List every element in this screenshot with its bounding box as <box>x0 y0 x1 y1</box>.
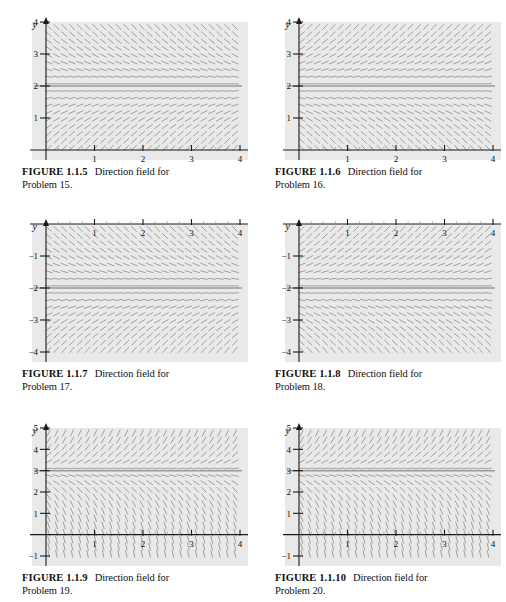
svg-text:2: 2 <box>141 228 146 238</box>
svg-text:1: 1 <box>92 154 97 164</box>
svg-text:−1: −1 <box>281 551 291 561</box>
figure-block-1-1-7: 1234−1−2−3−4yt FIGURE 1.1.7Direction fie… <box>0 218 253 394</box>
direction-field-plot-1-1-10: 1234−112345yt <box>269 422 501 570</box>
figure-caption-1-1-6: FIGURE 1.1.6Direction field for Problem … <box>275 166 490 192</box>
direction-field-plot-1-1-7: 1234−1−2−3−4yt <box>16 218 248 366</box>
figure-caption-line2: Problem 16. <box>275 179 325 190</box>
svg-text:4: 4 <box>34 445 39 455</box>
svg-text:−3: −3 <box>281 315 291 325</box>
svg-text:2: 2 <box>141 539 146 549</box>
svg-text:3: 3 <box>34 466 39 476</box>
svg-text:−4: −4 <box>28 347 38 357</box>
svg-text:3: 3 <box>442 539 447 549</box>
figure-number-label: FIGURE 1.1.5 <box>22 166 88 177</box>
svg-text:4: 4 <box>238 228 243 238</box>
svg-text:1: 1 <box>345 154 350 164</box>
figure-block-1-1-9: 1234−112345yt FIGURE 1.1.9Direction fiel… <box>0 422 253 598</box>
svg-text:1: 1 <box>287 113 292 123</box>
svg-text:−1: −1 <box>281 251 291 261</box>
svg-text:3: 3 <box>34 49 39 59</box>
svg-text:−2: −2 <box>28 283 38 293</box>
svg-text:1: 1 <box>92 539 97 549</box>
svg-text:1: 1 <box>34 113 39 123</box>
svg-text:y: y <box>285 221 291 232</box>
svg-text:2: 2 <box>394 539 399 549</box>
svg-text:y: y <box>285 19 291 30</box>
svg-text:3: 3 <box>442 154 447 164</box>
svg-text:1: 1 <box>345 539 350 549</box>
figure-number-label: FIGURE 1.1.10 <box>275 572 346 583</box>
svg-text:2: 2 <box>287 487 292 497</box>
figure-number-label: FIGURE 1.1.9 <box>22 572 88 583</box>
figure-caption-text: Direction field for <box>348 368 423 379</box>
figure-caption-line2: Problem 19. <box>22 585 72 596</box>
svg-text:2: 2 <box>394 228 399 238</box>
figure-caption-text: Direction field for <box>95 368 170 379</box>
figure-caption-line2: Problem 20. <box>275 585 325 596</box>
figure-block-1-1-6: 12341234yt FIGURE 1.1.6Direction field f… <box>253 16 506 192</box>
figure-number-label: FIGURE 1.1.8 <box>275 368 341 379</box>
slope-field-svg-1: 12341234yt <box>16 16 248 164</box>
svg-text:1: 1 <box>34 509 39 519</box>
figure-caption-text: Direction field for <box>95 166 170 177</box>
svg-text:1: 1 <box>92 228 97 238</box>
figure-caption-1-1-7: FIGURE 1.1.7Direction field for Problem … <box>22 368 237 394</box>
slope-field-svg-4: 1234−1−2−3−4yt <box>269 218 501 366</box>
svg-text:y: y <box>32 19 38 30</box>
svg-text:y: y <box>32 425 38 436</box>
svg-text:2: 2 <box>141 154 146 164</box>
slope-field-svg-5: 1234−112345yt <box>16 422 248 570</box>
figure-number-label: FIGURE 1.1.6 <box>275 166 341 177</box>
svg-text:−3: −3 <box>28 315 38 325</box>
svg-text:−1: −1 <box>28 551 38 561</box>
figure-caption-1-1-9: FIGURE 1.1.9Direction field for Problem … <box>22 572 237 598</box>
figure-caption-1-1-10: FIGURE 1.1.10Direction field for Problem… <box>275 572 490 598</box>
svg-text:−1: −1 <box>28 251 38 261</box>
svg-text:3: 3 <box>189 539 194 549</box>
figure-caption-text: Direction field for <box>353 572 428 583</box>
svg-text:4: 4 <box>238 539 243 549</box>
figure-caption-1-1-8: FIGURE 1.1.8Direction field for Problem … <box>275 368 490 394</box>
svg-text:3: 3 <box>287 466 292 476</box>
figure-caption-text: Direction field for <box>348 166 423 177</box>
svg-text:2: 2 <box>34 487 39 497</box>
svg-text:3: 3 <box>189 228 194 238</box>
svg-text:2: 2 <box>34 81 39 91</box>
figure-caption-line2: Problem 15. <box>22 179 72 190</box>
direction-field-plot-1-1-9: 1234−112345yt <box>16 422 248 570</box>
figure-number-label: FIGURE 1.1.7 <box>22 368 88 379</box>
slope-field-svg-3: 1234−1−2−3−4yt <box>16 218 248 366</box>
figure-block-1-1-5: 12341234yt FIGURE 1.1.5Direction field f… <box>0 16 253 192</box>
figure-caption-line2: Problem 17. <box>22 381 72 392</box>
svg-text:4: 4 <box>491 154 496 164</box>
svg-text:4: 4 <box>238 154 243 164</box>
figure-block-1-1-10: 1234−112345yt FIGURE 1.1.10Direction fie… <box>253 422 506 598</box>
svg-text:4: 4 <box>491 539 496 549</box>
svg-text:4: 4 <box>287 445 292 455</box>
svg-text:4: 4 <box>491 228 496 238</box>
direction-field-plot-1-1-5: 12341234yt <box>16 16 248 164</box>
direction-field-plot-1-1-8: 1234−1−2−3−4yt <box>269 218 501 366</box>
svg-text:1: 1 <box>345 228 350 238</box>
figure-block-1-1-8: 1234−1−2−3−4yt FIGURE 1.1.8Direction fie… <box>253 218 506 394</box>
slope-field-svg-2: 12341234yt <box>269 16 501 164</box>
svg-text:3: 3 <box>287 49 292 59</box>
direction-field-plot-1-1-6: 12341234yt <box>269 16 501 164</box>
svg-text:2: 2 <box>394 154 399 164</box>
svg-text:−2: −2 <box>281 283 291 293</box>
figure-caption-line2: Problem 18. <box>275 381 325 392</box>
svg-text:y: y <box>285 425 291 436</box>
svg-text:y: y <box>32 221 38 232</box>
figure-caption-text: Direction field for <box>95 572 170 583</box>
textbook-figure-page: 12341234yt FIGURE 1.1.5Direction field f… <box>0 0 506 602</box>
svg-text:−4: −4 <box>281 347 291 357</box>
svg-text:2: 2 <box>287 81 292 91</box>
figure-caption-1-1-5: FIGURE 1.1.5Direction field for Problem … <box>22 166 237 192</box>
slope-field-svg-6: 1234−112345yt <box>269 422 501 570</box>
svg-text:3: 3 <box>442 228 447 238</box>
svg-text:3: 3 <box>189 154 194 164</box>
svg-text:1: 1 <box>287 509 292 519</box>
